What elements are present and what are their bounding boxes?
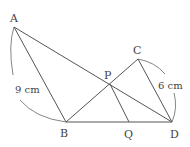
segment-AB (14, 27, 66, 122)
label-point-A: A (9, 12, 19, 25)
label-length-AB: 9 cm (15, 84, 40, 95)
arc-AB-upper (11, 27, 14, 75)
label-point-B: B (60, 127, 68, 140)
label-point-D: D (170, 128, 179, 141)
segment-AD (14, 27, 172, 122)
arc-AB-lower (20, 100, 66, 122)
label-length-CD: 6 cm (158, 80, 183, 91)
geometry-diagram: A B C D P Q 9 cm 6 cm (0, 0, 190, 147)
label-point-P: P (104, 69, 112, 82)
arc-CD-lower (172, 93, 176, 122)
label-point-C: C (133, 44, 141, 57)
segment-BC (66, 59, 138, 122)
label-point-Q: Q (124, 128, 133, 141)
segment-PQ (110, 84, 129, 122)
